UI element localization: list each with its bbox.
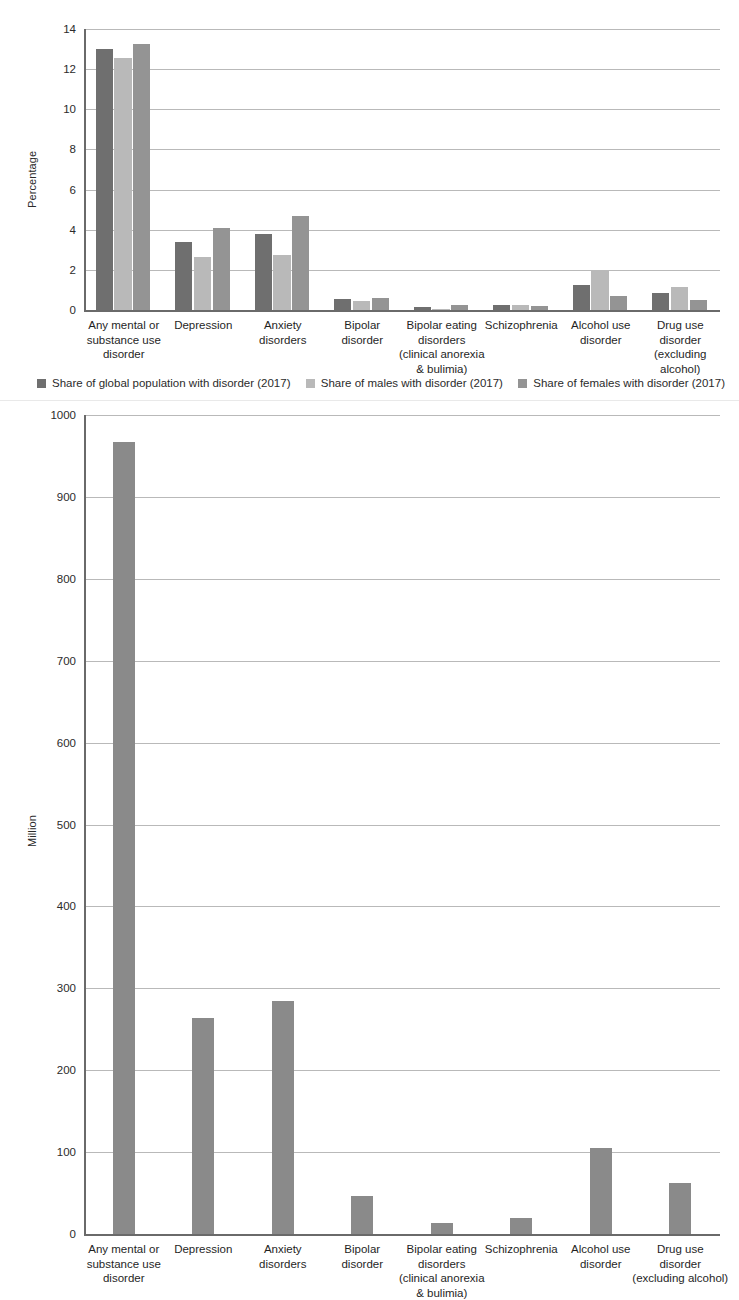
x-axis-line [84, 1234, 720, 1236]
gridline [84, 149, 720, 150]
bar [690, 300, 707, 310]
bar [351, 1196, 373, 1234]
gridline [84, 743, 720, 744]
million-chart: Million01002003004005006007008009001000A… [0, 400, 739, 921]
bar [175, 242, 192, 310]
bar [669, 1183, 691, 1234]
bar [591, 271, 608, 310]
y-axis-tick-label: 0 [0, 1228, 76, 1240]
legend-swatch-icon [37, 379, 46, 388]
gridline [84, 497, 720, 498]
gridline [84, 190, 720, 191]
y-axis-tick-label: 400 [0, 900, 76, 912]
y-axis-tick-label: 500 [0, 819, 76, 831]
bar [192, 1018, 214, 1234]
y-axis-tick-label: 12 [0, 63, 76, 75]
gridline [84, 906, 720, 907]
x-axis-line [84, 310, 720, 312]
bar [652, 293, 669, 310]
y-axis-line [84, 415, 86, 1234]
bar [96, 49, 113, 310]
y-axis-tick-label: 8 [0, 143, 76, 155]
bar [353, 301, 370, 310]
bar [114, 58, 131, 310]
gridline [84, 825, 720, 826]
legend-label: Share of global population with disorder… [52, 377, 290, 389]
bar [194, 257, 211, 310]
y-axis-title: Percentage [26, 150, 38, 207]
legend-item[interactable]: Share of females with disorder (2017) [518, 377, 725, 389]
legend-item[interactable]: Share of males with disorder (2017) [306, 377, 503, 389]
bar [573, 285, 590, 310]
y-axis-tick-label: 2 [0, 264, 76, 276]
bar [451, 305, 468, 310]
gridline [84, 415, 720, 416]
y-axis-tick-label: 200 [0, 1064, 76, 1076]
gridline [84, 988, 720, 989]
y-axis-tick-label: 900 [0, 491, 76, 503]
y-axis-tick-label: 800 [0, 573, 76, 585]
y-axis-tick-label: 0 [0, 304, 76, 316]
bar [133, 44, 150, 310]
gridline [84, 1152, 720, 1153]
bar [273, 255, 290, 310]
legend-label: Share of males with disorder (2017) [321, 377, 503, 389]
bar [414, 307, 431, 310]
y-axis-tick-label: 6 [0, 184, 76, 196]
y-axis-tick-label: 700 [0, 655, 76, 667]
gridline [84, 579, 720, 580]
gridline [84, 1070, 720, 1071]
legend-item[interactable]: Share of global population with disorder… [37, 377, 290, 389]
bar [213, 228, 230, 310]
bar [610, 296, 627, 310]
bar [510, 1218, 532, 1234]
bar [334, 299, 351, 310]
bar [372, 298, 389, 310]
y-axis-tick-label: 14 [0, 23, 76, 35]
y-axis-tick-label: 100 [0, 1146, 76, 1158]
gridline [84, 661, 720, 662]
gridline [84, 69, 720, 70]
bar [671, 287, 688, 310]
bar [590, 1148, 612, 1234]
bar [272, 1001, 294, 1234]
x-axis-category-label: Drug use disorder (excluding alcohol) [631, 318, 731, 376]
bar [292, 216, 309, 310]
chart-legend: Share of global population with disorder… [37, 377, 725, 389]
y-axis-tick-label: 300 [0, 982, 76, 994]
bar [432, 309, 449, 310]
gridline [84, 29, 720, 30]
legend-label: Share of females with disorder (2017) [533, 377, 725, 389]
y-axis-tick-label: 600 [0, 737, 76, 749]
y-axis-tick-label: 4 [0, 224, 76, 236]
bar [113, 442, 135, 1234]
legend-swatch-icon [518, 379, 527, 388]
gridline [84, 230, 720, 231]
legend-swatch-icon [306, 379, 315, 388]
bar [255, 234, 272, 310]
y-axis-line [84, 29, 86, 310]
bar [512, 305, 529, 310]
gridline [84, 109, 720, 110]
bar [531, 306, 548, 310]
bar [431, 1223, 453, 1234]
bar [493, 305, 510, 310]
y-axis-tick-label: 1000 [0, 409, 76, 421]
percentage-chart: Percentage02468101214Any mental or subst… [0, 0, 739, 400]
x-axis-category-label: Drug use disorder (excluding alcohol) [627, 1242, 735, 1286]
y-axis-tick-label: 10 [0, 103, 76, 115]
